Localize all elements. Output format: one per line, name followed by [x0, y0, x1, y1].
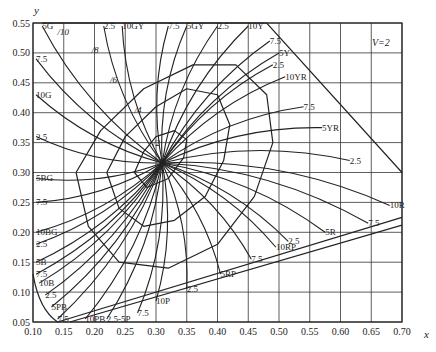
hue-label: 7.5 [168, 21, 180, 31]
hue-label: 2.5 [273, 60, 285, 70]
hue-label: 10B [39, 278, 54, 288]
hue-label: 5R [325, 227, 336, 237]
x-tick-label: 0.50 [270, 326, 288, 337]
hue-label: 2.5 [288, 236, 300, 246]
hue-label: 2.5 [187, 284, 199, 294]
hue-label: 5PB [51, 302, 67, 312]
hue-line [162, 162, 390, 205]
hue-line [162, 150, 350, 162]
hue-label: 7.5 [138, 308, 150, 318]
y-tick-label: 0.45 [13, 77, 31, 88]
chroma-label: /4 [133, 105, 142, 115]
hue-label: 7.5 [36, 197, 48, 207]
chroma-label: /6 [109, 75, 118, 85]
hue-label: 2.5 [36, 239, 48, 249]
hue-line [162, 163, 251, 259]
y-tick-label: 0.35 [13, 137, 31, 148]
x-tick-label: 0.20 [86, 326, 104, 337]
hue-label: 7.5 [251, 254, 263, 264]
x-tick-label: 0.15 [55, 326, 73, 337]
hue-line [162, 163, 187, 289]
hue-label: 2.5 [350, 156, 362, 166]
hue-label: 2.5 [45, 290, 57, 300]
hue-line [162, 107, 303, 163]
hue-label: 10BG [36, 227, 58, 237]
hue-line [36, 137, 162, 163]
x-axis-label: x [423, 328, 429, 340]
hue-label: 2.5-5P [107, 314, 131, 324]
y-tick-label: 0.30 [13, 167, 31, 178]
chroma-label: /8 [90, 45, 99, 55]
x-tick-label: 0.70 [393, 326, 411, 337]
hue-label: 5GY [187, 21, 205, 31]
hue-label: 10G [36, 90, 52, 100]
hue-label: 10PB [85, 314, 105, 324]
hue-line [162, 41, 270, 163]
hue-label: 2.5 [104, 21, 116, 31]
x-tick-label: 0.40 [209, 326, 227, 337]
munsell-chart: 5G7.510G2.55BG7.510BG2.55B7.510B2.55PB7.… [0, 0, 436, 352]
hue-label: 7.5 [304, 102, 316, 112]
x-tick-label: 0.35 [178, 326, 196, 337]
hue-line [36, 163, 162, 180]
x-tick-label: 0.25 [117, 326, 135, 337]
y-tick-label: 0.05 [13, 317, 31, 328]
x-tick-label: 0.55 [301, 326, 319, 337]
hue-label: 2.5 [218, 21, 230, 31]
y-tick-label: 0.50 [13, 47, 31, 58]
hue-label: 7.5 [58, 314, 70, 324]
hue-label: 10GY [122, 21, 144, 31]
chroma-label: /10 [57, 27, 70, 37]
hue-label: 5BG [36, 173, 54, 183]
hue-label: 7.5 [270, 36, 282, 46]
x-tick-label: 0.30 [147, 326, 165, 337]
x-tick-label: 0.45 [240, 326, 258, 337]
y-axis-label: y [33, 4, 39, 16]
hue-label: 2.5 [36, 132, 48, 142]
hue-label: 7.5 [36, 54, 48, 64]
x-tick-label: 0.10 [24, 326, 42, 337]
hue-label: 10YR [285, 72, 307, 82]
hue-line [107, 163, 162, 319]
hue-label: 7.5 [368, 218, 380, 228]
hue-label: 5G [42, 21, 54, 31]
y-tick-label: 0.25 [13, 197, 31, 208]
y-tick-label: 0.55 [13, 18, 31, 29]
chroma-label: /2 [152, 138, 161, 148]
y-tick-label: 0.40 [13, 107, 31, 118]
hue-label: 5YR [322, 123, 339, 133]
y-tick-label: 0.20 [13, 227, 31, 238]
hue-label: 10R [390, 200, 405, 210]
x-tick-label: 0.60 [332, 326, 350, 337]
value-annotation: V=2 [372, 37, 390, 48]
y-tick-label: 0.15 [13, 257, 31, 268]
hue-label: 5RP [221, 269, 237, 279]
x-tick-label: 0.65 [363, 326, 381, 337]
hue-label: 5Y [279, 48, 291, 58]
hue-line [162, 53, 279, 163]
hue-label: 10P [156, 296, 170, 306]
hue-label: 5B [36, 257, 47, 267]
hue-label: 10Y [248, 21, 264, 31]
y-tick-label: 0.10 [13, 287, 31, 298]
hue-line [162, 163, 368, 223]
